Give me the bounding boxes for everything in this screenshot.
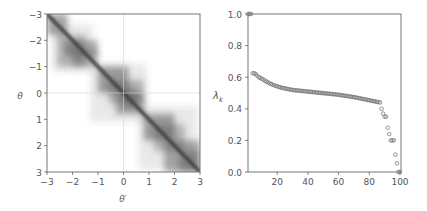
y-tick-label: 1 xyxy=(36,115,42,125)
data-point xyxy=(394,153,398,157)
data-point xyxy=(386,126,390,130)
x-tick-label: 80 xyxy=(364,177,376,187)
y-tick-label: −3 xyxy=(29,10,42,20)
y-tick-label: 0.4 xyxy=(228,104,243,114)
y-tick-label: 2 xyxy=(36,141,42,151)
heatmap-y-label: θ xyxy=(17,91,23,101)
data-point xyxy=(380,107,384,111)
y-tick-label: 0.8 xyxy=(228,41,243,51)
x-tick-label: 1 xyxy=(146,177,152,187)
x-tick-label: 3 xyxy=(197,177,203,187)
ylabel-lambda: λ xyxy=(212,90,219,101)
heatmap-panel: −3−2−10123−3−2−10123 θ θ′ xyxy=(17,10,203,205)
data-point xyxy=(387,132,391,136)
x-tick-label: 40 xyxy=(302,177,314,187)
y-tick-label: 1.0 xyxy=(228,10,243,20)
figure-canvas: −3−2−10123−3−2−10123 θ θ′ 204060801000.0… xyxy=(0,0,427,211)
x-tick-label: 20 xyxy=(271,177,283,187)
x-tick-label: −2 xyxy=(66,177,79,187)
heatmap-halo-rect xyxy=(52,25,93,72)
x-tick-label: 60 xyxy=(333,177,345,187)
x-tick-label: −3 xyxy=(40,177,53,187)
eigenvalue-y-label: λk xyxy=(212,90,224,104)
figure: −3−2−10123−3−2−10123 θ θ′ 204060801000.0… xyxy=(0,0,427,211)
eigenvalue-points xyxy=(246,12,402,174)
x-tick-label: −1 xyxy=(91,177,104,187)
x-tick-label: 100 xyxy=(391,177,408,187)
eigenvalue-panel: 204060801000.00.20.40.60.81.0 λk xyxy=(212,10,409,188)
y-tick-label: 0.2 xyxy=(228,136,242,146)
ylabel-subscript: k xyxy=(219,96,224,104)
data-point xyxy=(395,162,399,166)
y-tick-label: 3 xyxy=(36,168,42,178)
heatmap-x-label: θ′ xyxy=(119,194,127,204)
y-tick-label: 0.0 xyxy=(228,168,243,178)
y-tick-label: −2 xyxy=(29,36,42,46)
y-tick-label: −1 xyxy=(29,62,42,72)
eigenvalue-ticks: 204060801000.00.20.40.60.81.0 xyxy=(228,10,409,188)
x-tick-label: 2 xyxy=(172,177,178,187)
y-tick-label: 0.6 xyxy=(228,73,243,83)
y-tick-label: 0 xyxy=(36,89,42,99)
x-tick-label: 0 xyxy=(121,177,127,187)
